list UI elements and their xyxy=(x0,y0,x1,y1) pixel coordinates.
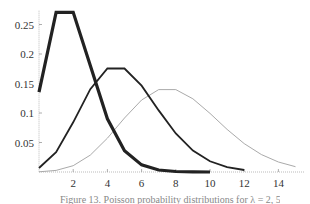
axes xyxy=(39,11,304,172)
y-tick-label: 0.05 xyxy=(15,137,35,149)
series-lines xyxy=(39,12,296,172)
x-tick-label: 6 xyxy=(139,177,145,189)
x-tick-label: 4 xyxy=(105,177,111,189)
y-tick-label: 0.1 xyxy=(20,107,34,119)
figure-caption: Figure 13. Poisson probability distribut… xyxy=(60,193,280,204)
series-line-lambda-5 xyxy=(39,69,244,171)
x-tick-label: 8 xyxy=(173,177,179,189)
tick-labels: 0.050.10.150.20.252468101214 xyxy=(15,19,285,190)
x-tick-label: 14 xyxy=(273,177,285,189)
series-line-lambda-2 xyxy=(39,12,210,172)
x-tick-label: 12 xyxy=(239,177,250,189)
y-tick-label: 0.2 xyxy=(20,48,34,60)
x-tick-label: 2 xyxy=(70,177,76,189)
poisson-line-chart: 0.050.10.150.20.252468101214 xyxy=(0,0,310,190)
y-tick-label: 0.15 xyxy=(15,78,35,90)
y-tick-label: 0.25 xyxy=(15,19,35,31)
x-tick-label: 10 xyxy=(205,177,217,189)
series-line-lambda-8 xyxy=(39,90,296,172)
